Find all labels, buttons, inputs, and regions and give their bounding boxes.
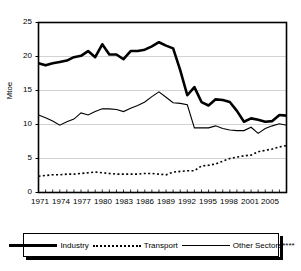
legend-label-industry: Industry <box>60 241 88 250</box>
legend-item-transport: Transport <box>91 240 180 250</box>
series-line-industry <box>39 42 287 122</box>
chart-container: Mtoe 25 20 15 10 5 0 1971 1974 1977 1980… <box>0 0 301 271</box>
legend-swatch-other-sectors-icon <box>180 240 232 250</box>
legend-item-other-sectors: Other Sectors**** <box>180 240 297 250</box>
legend-label-transport: Transport <box>144 241 178 250</box>
legend-item-industry: Industry <box>7 240 90 250</box>
chart-legend: Industry Transport Other Sectors**** <box>23 233 279 257</box>
legend-swatch-industry-icon <box>7 240 59 250</box>
plot-area <box>0 0 301 271</box>
legend-label-other-sectors: Other Sectors**** <box>233 241 295 250</box>
series-line-transport <box>39 146 287 177</box>
legend-swatch-transport-icon <box>91 240 143 250</box>
series-line-other-sectors <box>39 92 287 133</box>
plot-frame <box>39 23 287 193</box>
legend-shadow-bottom <box>26 257 283 260</box>
